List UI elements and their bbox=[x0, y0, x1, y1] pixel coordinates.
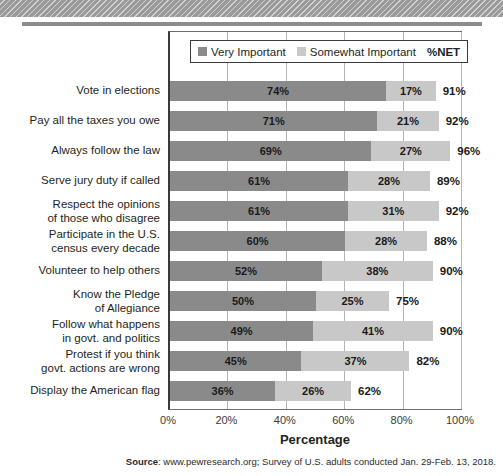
source-prefix: Source bbox=[126, 456, 158, 467]
net-value-label: 91% bbox=[443, 81, 466, 101]
bar-segment-somewhat-important: 17% bbox=[386, 81, 436, 101]
x-tick-label: 100% bbox=[446, 414, 474, 426]
legend-label-very-important: Very Important bbox=[211, 46, 286, 58]
bar-segment-very-important: 45% bbox=[170, 351, 301, 371]
chart-row: Serve jury duty if called61%28%89% bbox=[0, 166, 503, 196]
bar-segment-somewhat-important: 28% bbox=[345, 231, 427, 251]
net-value-label: 75% bbox=[396, 291, 419, 311]
bar-segment-very-important: 69% bbox=[170, 141, 371, 161]
category-label: Always follow the law bbox=[0, 144, 160, 158]
legend-item-very-important: Very Important bbox=[198, 46, 286, 58]
net-value-label: 88% bbox=[434, 231, 457, 251]
chart-row: Always follow the law69%27%96% bbox=[0, 136, 503, 166]
stacked-bar: 36%26% bbox=[170, 381, 351, 401]
category-label: Serve jury duty if called bbox=[0, 174, 160, 188]
x-tick-label: 20% bbox=[215, 414, 237, 426]
bar-segment-somewhat-important: 25% bbox=[316, 291, 389, 311]
bar-segment-very-important: 71% bbox=[170, 111, 377, 131]
chart-legend: Very Important Somewhat Important %NET bbox=[190, 40, 468, 63]
bar-segment-very-important: 61% bbox=[170, 201, 348, 221]
chart-row: Respect the opinionsof those who disagre… bbox=[0, 196, 503, 226]
net-value-label: 92% bbox=[446, 111, 469, 131]
bar-segment-very-important: 60% bbox=[170, 231, 345, 251]
net-value-label: 89% bbox=[437, 171, 460, 191]
header-hatch-band bbox=[0, 0, 503, 17]
category-label: Know the Pledgeof Allegiance bbox=[0, 288, 160, 315]
legend-label-net: %NET bbox=[427, 46, 460, 58]
bar-segment-very-important: 36% bbox=[170, 381, 275, 401]
bar-segment-somewhat-important: 28% bbox=[348, 171, 430, 191]
bar-segment-somewhat-important: 27% bbox=[371, 141, 450, 161]
net-value-label: 82% bbox=[416, 351, 439, 371]
stacked-bar: 61%28% bbox=[170, 171, 430, 191]
chart-row: Display the American flag36%26%62% bbox=[0, 376, 503, 406]
chart-row: Vote in elections74%17%91% bbox=[0, 76, 503, 106]
x-tick-label: 40% bbox=[274, 414, 296, 426]
bar-segment-very-important: 49% bbox=[170, 321, 313, 341]
stacked-bar: 71%21% bbox=[170, 111, 439, 131]
source-note: Source: www.pewresearch.org; Survey of U… bbox=[0, 456, 496, 467]
category-label: Vote in elections bbox=[0, 84, 160, 98]
net-value-label: 92% bbox=[446, 201, 469, 221]
stacked-bar: 49%41% bbox=[170, 321, 433, 341]
stacked-bar: 69%27% bbox=[170, 141, 450, 161]
category-label: Volunteer to help others bbox=[0, 264, 160, 278]
category-label: Pay all the taxes you owe bbox=[0, 114, 160, 128]
header-divider-rule bbox=[22, 22, 482, 26]
legend-item-somewhat-important: Somewhat Important bbox=[297, 46, 416, 58]
source-text: : www.pewresearch.org; Survey of U.S. ad… bbox=[158, 456, 496, 467]
stacked-bar: 74%17% bbox=[170, 81, 436, 101]
legend-swatch-very-important bbox=[198, 47, 207, 56]
stacked-bar: 60%28% bbox=[170, 231, 427, 251]
category-label: Participate in the U.S.census every deca… bbox=[0, 228, 160, 255]
bar-segment-somewhat-important: 31% bbox=[348, 201, 439, 221]
x-tick-label: 80% bbox=[391, 414, 413, 426]
x-tick-label: 0% bbox=[160, 414, 176, 426]
chart-row: Pay all the taxes you owe71%21%92% bbox=[0, 106, 503, 136]
bar-segment-somewhat-important: 26% bbox=[275, 381, 351, 401]
bar-segment-somewhat-important: 37% bbox=[301, 351, 409, 371]
bar-segment-somewhat-important: 38% bbox=[322, 261, 433, 281]
net-value-label: 90% bbox=[440, 261, 463, 281]
stacked-bar: 61%31% bbox=[170, 201, 439, 221]
legend-swatch-somewhat-important bbox=[297, 47, 306, 56]
stacked-bar: 45%37% bbox=[170, 351, 409, 371]
chart-row: Know the Pledgeof Allegiance50%25%75% bbox=[0, 286, 503, 316]
net-value-label: 96% bbox=[457, 141, 480, 161]
net-value-label: 62% bbox=[358, 381, 381, 401]
chart-row: Volunteer to help others52%38%90% bbox=[0, 256, 503, 286]
stacked-bar: 50%25% bbox=[170, 291, 389, 311]
chart-row: Follow what happensin govt. and politics… bbox=[0, 316, 503, 346]
bar-segment-somewhat-important: 41% bbox=[313, 321, 433, 341]
net-value-label: 90% bbox=[440, 321, 463, 341]
chart-row: Participate in the U.S.census every deca… bbox=[0, 226, 503, 256]
chart-row: Protest if you thinkgovt. actions are wr… bbox=[0, 346, 503, 376]
category-label: Display the American flag bbox=[0, 384, 160, 398]
category-label: Respect the opinionsof those who disagre… bbox=[0, 198, 160, 225]
category-label: Follow what happensin govt. and politics bbox=[0, 318, 160, 345]
bar-segment-somewhat-important: 21% bbox=[377, 111, 438, 131]
stacked-bar: 52%38% bbox=[170, 261, 433, 281]
legend-label-somewhat-important: Somewhat Important bbox=[310, 46, 416, 58]
bar-segment-very-important: 61% bbox=[170, 171, 348, 191]
x-axis-title: Percentage bbox=[168, 432, 462, 447]
category-label: Protest if you thinkgovt. actions are wr… bbox=[0, 348, 160, 375]
bar-segment-very-important: 52% bbox=[170, 261, 322, 281]
bar-segment-very-important: 74% bbox=[170, 81, 386, 101]
x-tick-label: 60% bbox=[332, 414, 354, 426]
bar-segment-very-important: 50% bbox=[170, 291, 316, 311]
